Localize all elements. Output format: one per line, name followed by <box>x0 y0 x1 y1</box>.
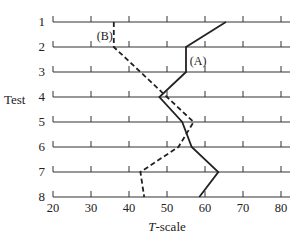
x-tick-label: 40 <box>123 201 136 215</box>
chart-svg: 12345678 (A)(B) 20304050607080 Test T-sc… <box>0 0 307 236</box>
t-scale-profile-chart: 12345678 (A)(B) 20304050607080 Test T-sc… <box>0 0 307 236</box>
test-rows: 12345678 <box>39 14 291 204</box>
x-axis-label: T-scale <box>148 219 186 234</box>
test-row-label: 1 <box>39 14 46 29</box>
x-tick-label: 30 <box>85 201 98 215</box>
x-axis-tick-labels: 20304050607080 <box>47 201 288 215</box>
test-row-label: 8 <box>39 189 46 204</box>
x-tick-label: 20 <box>47 201 60 215</box>
x-tick-label: 60 <box>199 201 212 215</box>
x-tick-label: 80 <box>275 201 288 215</box>
series-b-line <box>114 22 194 197</box>
test-row-label: 6 <box>39 139 46 154</box>
test-row-label: 2 <box>39 39 46 54</box>
series-annotation: (B) <box>97 29 113 43</box>
test-row-label: 3 <box>39 64 46 79</box>
series-annotation: (A) <box>190 54 207 68</box>
series-a-line <box>159 22 226 197</box>
series-lines <box>114 22 226 197</box>
test-row-label: 5 <box>39 114 46 129</box>
y-axis-label: Test <box>4 92 26 107</box>
test-row-label: 4 <box>39 89 46 104</box>
test-row-label: 7 <box>39 164 46 179</box>
x-tick-label: 70 <box>237 201 250 215</box>
x-tick-label: 50 <box>161 201 174 215</box>
